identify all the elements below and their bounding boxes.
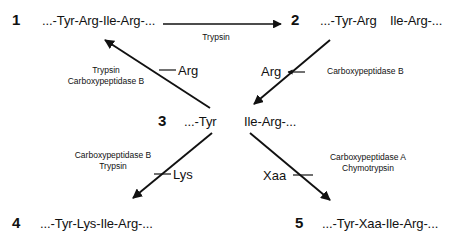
enzyme-label-carboxypeptidase-b-step2-step3: Carboxypeptidase B — [327, 67, 404, 76]
residue-label-lys: Lys — [173, 168, 193, 181]
step-2-sequence-left: ...-Tyr-Arg — [320, 14, 377, 27]
residue-label-arg-upper-left: Arg — [178, 64, 198, 77]
enzyme-label-chymotrypsin-step3-step5: Chymotrypsin — [342, 164, 394, 173]
step-1-sequence: ...-Tyr-Arg-Ile-Arg-... — [42, 14, 155, 27]
residue-label-arg-upper-right: Arg — [261, 65, 281, 78]
enzyme-label-carboxypeptidase-b-step3-step4: Carboxypeptidase B — [75, 151, 152, 160]
step-5-sequence: ...-Tyr-Xaa-Ile-Arg-... — [322, 217, 438, 230]
peptide-cleavage-diagram: 1 ...-Tyr-Arg-Ile-Arg-... Trypsin 2 ...-… — [0, 0, 453, 244]
arrow-step3-to-step4 — [133, 133, 212, 198]
enzyme-label-carboxypeptidase-b-step3-step1: Carboxypeptidase B — [68, 77, 145, 86]
enzyme-label-trypsin-step3-step4: Trypsin — [99, 162, 127, 171]
step-number-2: 2 — [291, 12, 300, 27]
step-4-sequence: ...-Tyr-Lys-Ile-Arg-... — [40, 217, 153, 230]
step-3-sequence-right: Ile-Arg-... — [244, 115, 296, 128]
enzyme-label-trypsin-step1-step2: Trypsin — [202, 33, 230, 42]
step-number-4: 4 — [12, 215, 21, 230]
enzyme-label-trypsin-step3-step1: Trypsin — [92, 66, 120, 75]
step-number-1: 1 — [12, 12, 21, 27]
step-number-5: 5 — [295, 215, 304, 230]
step-number-3: 3 — [158, 113, 167, 128]
step-2-sequence-right: Ile-Arg-... — [390, 14, 442, 27]
enzyme-label-carboxypeptidase-a-step3-step5: Carboxypeptidase A — [330, 153, 406, 162]
residue-label-xaa: Xaa — [263, 169, 286, 182]
arrow-step3-to-step5 — [250, 133, 330, 200]
step-3-sequence-left: ...-Tyr — [184, 115, 217, 128]
